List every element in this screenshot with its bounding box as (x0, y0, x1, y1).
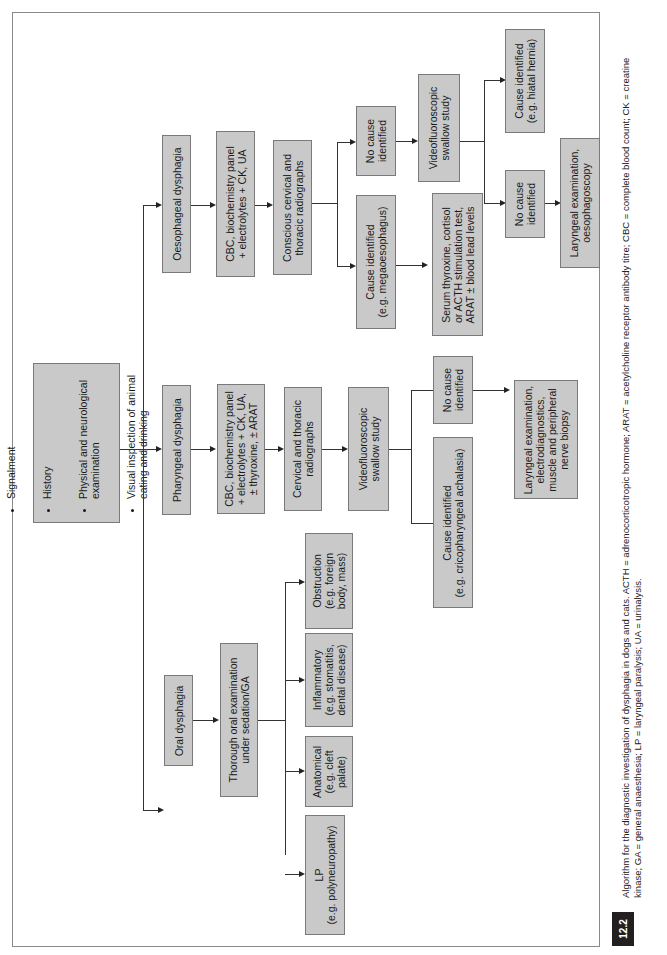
connector (191, 205, 210, 206)
connector (337, 266, 350, 267)
label: CBC, biochemistry panel + electrolytes +… (223, 391, 259, 507)
pharyngeal-tests-box: CBC, biochemistry panel + electrolytes +… (217, 384, 265, 514)
figure-number-badge: 12.2 (612, 912, 634, 946)
split-line (285, 582, 286, 855)
split-line (484, 80, 485, 204)
oesophageal-followup-box: Serum thyroxine, cortisol or ACTH stimul… (432, 193, 483, 336)
split-line (411, 390, 412, 523)
oesophageal-no-cause-box: No cause identified (356, 106, 396, 176)
label: Cause identified (e.g. megaoesophagus) (364, 207, 388, 318)
trunk-line (143, 205, 144, 810)
label: Videofluoroscopic swallow study (427, 87, 451, 170)
label: LP (e.g. polyneuropathy) (313, 825, 337, 924)
connector (411, 523, 433, 524)
oral-exam-box: Thorough oral examination under sedation… (220, 643, 258, 797)
connector (285, 874, 299, 875)
oesophageal-radiographs-box: Conscious cervical and thoracic radiogra… (273, 140, 312, 275)
connector (193, 720, 213, 721)
label: Videofluoroscopic swallow study (357, 408, 381, 491)
start-box: Signalment History Physical and neurolog… (33, 363, 120, 523)
label: Conscious cervical and thoracic radiogra… (281, 154, 305, 262)
oral-outcome-lp: LP (e.g. polyneuropathy) (305, 815, 345, 935)
pharyngeal-dysphagia-box: Pharyngeal dysphagia (162, 385, 191, 515)
figure-number: 12.2 (618, 919, 629, 938)
connector (143, 205, 156, 206)
label: No cause identified (441, 368, 465, 412)
oesophageal-dysphagia-box: Oesophageal dysphagia (162, 135, 191, 273)
label: CBC, biochemistry panel + electrolytes +… (224, 146, 248, 262)
pharyngeal-radiographs-box: Cervical and thoracic radiographs (284, 387, 322, 511)
arrow-icon (210, 446, 216, 452)
oesophageal-swallow-box: Videofluoroscopic swallow study (418, 74, 460, 182)
start-item: Physical and neurological examination (77, 375, 101, 499)
connector (258, 720, 285, 721)
connector (143, 449, 156, 450)
connector (285, 582, 299, 583)
pharyngeal-swallow-box: Videofluoroscopic swallow study (348, 387, 389, 511)
oral-dysphagia-box: Oral dysphagia (164, 675, 193, 766)
label: No cause identified (364, 119, 388, 163)
pharyngeal-cause-box: Cause identified (e.g. cricopharyngeal a… (433, 437, 473, 608)
caption-line-1: Algorithm for the diagnostic investigati… (620, 58, 632, 898)
label: Anatomical (e.g. cleft palate) (311, 746, 347, 798)
start-item: History (41, 375, 53, 499)
connector (484, 80, 500, 81)
connector (484, 203, 500, 204)
connector (337, 142, 350, 143)
connector (265, 449, 278, 450)
connector (143, 810, 158, 811)
oral-outcome-obstruction: Obstruction (e.g. foreign body, mass) (305, 533, 353, 629)
connector (396, 265, 422, 266)
oesophageal-final-box: Laryngeal examination, oesophagoscopy (560, 138, 600, 268)
label: Obstruction (e.g. foreign body, mass) (311, 553, 347, 609)
pharyngeal-no-cause-box: No cause identified (433, 356, 473, 424)
label: Cause identified (e.g. cricopharyngeal a… (441, 448, 465, 597)
label: Cervical and thoracic radiographs (291, 400, 315, 498)
oesophageal-tests-box: CBC, biochemistry panel + electrolytes +… (216, 131, 255, 277)
oral-outcome-inflammatory: Inflammatory (e.g. stomatitis, dental di… (305, 633, 353, 727)
connector (285, 680, 299, 681)
connector (120, 449, 143, 450)
oesophageal-cause-box: Cause identified (e.g. megaoesophagus) (356, 195, 396, 329)
start-item: Signalment (5, 375, 17, 499)
connector (389, 449, 411, 450)
label: Cause identified (e.g. hiatal hernia) (513, 39, 537, 124)
connector (255, 205, 267, 206)
oral-outcome-anatomical: Anatomical (e.g. cleft palate) (305, 736, 353, 807)
arrow-icon (213, 717, 219, 723)
oesophageal-swallow-cause-box: Cause identified (e.g. hiatal hernia) (505, 29, 545, 133)
caption-line-2: kinase; GA = general anaesthesia; LP = l… (632, 578, 644, 898)
label: No cause identified (513, 182, 537, 226)
connector (285, 771, 299, 772)
arrow-icon (158, 807, 164, 813)
connector (312, 203, 337, 204)
label: Serum thyroxine, cortisol or ACTH stimul… (440, 206, 476, 323)
label: Thorough oral examination under sedation… (227, 658, 251, 783)
connector (473, 390, 504, 391)
connector (545, 203, 555, 204)
start-item: Visual inspection of animal eating and d… (125, 375, 149, 499)
connector (322, 449, 342, 450)
label: Laryngeal examination, electrodiagnostic… (522, 385, 570, 494)
label: Oral dysphagia (173, 685, 185, 756)
arrow-icon (422, 262, 428, 268)
label: Oesophageal dysphagia (171, 147, 183, 260)
label: Inflammatory (e.g. stomatitis, dental di… (311, 644, 347, 715)
connector (191, 449, 210, 450)
connector (460, 141, 484, 142)
connector (396, 141, 412, 142)
label: Pharyngeal dysphagia (171, 398, 183, 502)
label: Laryngeal examination, oesophagoscopy (568, 149, 592, 258)
connector (411, 390, 433, 391)
pharyngeal-final-box: Laryngeal examination, electrodiagnostic… (514, 380, 578, 499)
arrow-icon (504, 387, 510, 393)
split-line (337, 142, 338, 267)
oesophageal-swallow-no-cause-box: No cause identified (505, 170, 545, 238)
